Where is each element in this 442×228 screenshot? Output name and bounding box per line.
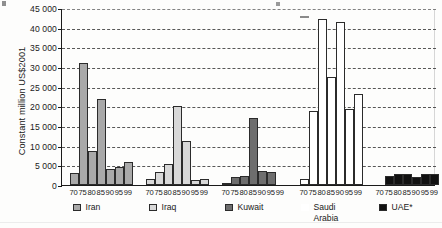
x-axis-tick-label: 85 — [248, 188, 257, 197]
x-axis-tick-label: 80 — [393, 188, 402, 197]
legend-item[interactable]: Saudi Arabia — [301, 202, 338, 223]
bar-group — [222, 9, 285, 185]
legend-item[interactable]: Kuwait — [225, 202, 263, 213]
x-axis-tick-label: 99 — [123, 188, 132, 197]
scan-artifact — [276, 2, 280, 6]
bar — [88, 151, 97, 185]
x-axis-tick-label: 95 — [114, 188, 123, 197]
y-axis-tick-label: 20 000 — [30, 102, 57, 112]
x-axis-tick-label: 95 — [266, 188, 275, 197]
y-axis-label: Constant million US$2001 — [17, 21, 27, 181]
x-axis-tick-label: 70 — [69, 188, 78, 197]
x-axis-tick-label: 90 — [411, 188, 420, 197]
bars-layer — [62, 9, 435, 185]
bar — [430, 174, 439, 185]
bar — [191, 180, 200, 185]
bar — [222, 183, 231, 185]
scan-artifact — [2, 1, 6, 6]
bar — [403, 174, 412, 185]
bar — [155, 172, 164, 185]
y-axis-tick-label: 5 000 — [35, 161, 57, 171]
bar — [124, 162, 133, 185]
y-axis-tick-label: 15 000 — [30, 122, 57, 132]
bar-group — [70, 9, 133, 185]
x-axis-tick-label: 75 — [230, 188, 239, 197]
x-axis-ticks: 7075808590959970758085909599707580859095… — [61, 188, 435, 199]
x-axis-tick-group: 70758085909599 — [375, 188, 438, 197]
y-axis-tick-label: 10 000 — [30, 142, 57, 152]
legend-label: Iraq — [162, 202, 177, 213]
x-axis-tick-label: 80 — [163, 188, 172, 197]
bar — [164, 164, 173, 185]
bar — [106, 169, 115, 185]
x-axis-tick-label: 85 — [402, 188, 411, 197]
bar-group — [146, 9, 209, 185]
bar — [354, 94, 363, 185]
x-axis-tick-label: 70 — [375, 188, 384, 197]
x-axis-tick-label: 80 — [317, 188, 326, 197]
legend-swatch-icon — [225, 204, 233, 212]
bar — [231, 177, 240, 185]
x-axis-tick-label: 90 — [181, 188, 190, 197]
x-axis-tick-label: 85 — [326, 188, 335, 197]
y-axis-tick-label: 0 — [52, 181, 57, 191]
bar — [345, 109, 354, 185]
legend-swatch-icon — [301, 204, 309, 212]
x-axis-tick-label: 80 — [87, 188, 96, 197]
bar-group — [376, 9, 439, 185]
x-axis-tick-label: 95 — [344, 188, 353, 197]
x-axis-tick-label: 90 — [257, 188, 266, 197]
bar — [249, 118, 258, 185]
bar — [70, 173, 79, 185]
bar — [200, 179, 209, 185]
x-axis-tick-label: 95 — [190, 188, 199, 197]
x-axis-tick-label: 75 — [154, 188, 163, 197]
x-axis-tick-group: 70758085909599 — [299, 188, 362, 197]
x-axis-tick-label: 85 — [96, 188, 105, 197]
x-axis-tick-label: 70 — [145, 188, 154, 197]
bar — [318, 19, 327, 185]
x-axis-tick-label: 75 — [308, 188, 317, 197]
x-axis-tick-group: 70758085909599 — [145, 188, 208, 197]
bar — [267, 172, 276, 185]
bar-chart: Constant million US$2001 05 00010 00015 … — [0, 0, 442, 228]
legend-swatch-icon — [379, 204, 387, 212]
x-axis-tick-label: 70 — [299, 188, 308, 197]
legend-item[interactable]: Iraq — [149, 202, 176, 213]
legend-item[interactable]: Iran — [73, 202, 100, 213]
bar — [336, 22, 345, 185]
bar — [240, 176, 249, 185]
legend-item[interactable]: UAE* — [379, 202, 413, 213]
legend-label: Saudi Arabia — [314, 202, 339, 223]
legend-label: Kuwait — [238, 202, 264, 213]
x-axis-tick-label: 70 — [221, 188, 230, 197]
x-axis-tick-label: 99 — [275, 188, 284, 197]
x-axis-tick-group: 70758085909599 — [69, 188, 132, 197]
x-axis-tick-label: 75 — [384, 188, 393, 197]
bar — [421, 174, 430, 185]
x-axis-tick-label: 99 — [199, 188, 208, 197]
x-axis-tick-label: 75 — [78, 188, 87, 197]
x-axis-tick-group: 70758085909599 — [221, 188, 284, 197]
bar — [309, 111, 318, 185]
bar — [97, 99, 106, 185]
x-axis-tick-label: 80 — [239, 188, 248, 197]
bar — [182, 141, 191, 185]
y-axis-tick-label: 35 000 — [30, 43, 57, 53]
bar — [412, 177, 421, 185]
chart-legend: IranIraqKuwaitSaudi ArabiaUAE* — [61, 202, 435, 228]
bar — [79, 63, 88, 185]
bar — [115, 167, 124, 185]
bar — [300, 179, 309, 185]
y-axis-tick-mark — [58, 186, 62, 187]
bar-group — [300, 9, 363, 185]
y-axis-tick-label: 40 000 — [30, 24, 57, 34]
bar — [385, 176, 394, 185]
x-axis-tick-label: 99 — [353, 188, 362, 197]
x-axis-tick-label: 90 — [105, 188, 114, 197]
legend-swatch-icon — [73, 204, 81, 212]
plot-area: 05 00010 00015 00020 00025 00030 00035 0… — [61, 9, 435, 186]
y-axis-tick-label: 25 000 — [30, 83, 57, 93]
x-axis-tick-label: 95 — [420, 188, 429, 197]
legend-swatch-icon — [149, 204, 157, 212]
